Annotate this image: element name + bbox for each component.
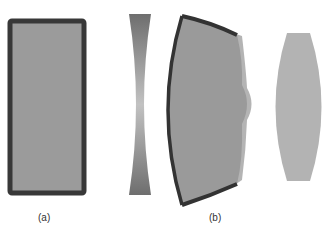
optics-figure [0,0,333,236]
concave-lens [129,14,151,195]
panel-label-b: (b) [209,212,221,223]
deformed-block [168,16,252,205]
panel-label-a: (a) [38,212,50,223]
rectangular-block [10,21,84,193]
biconvex-lens [276,33,322,181]
